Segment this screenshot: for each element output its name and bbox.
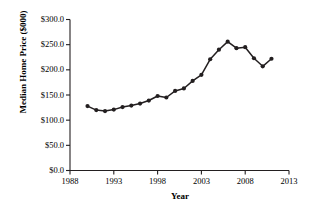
data-point <box>217 48 221 52</box>
data-point <box>164 95 168 99</box>
y-axis-ticks <box>66 20 70 171</box>
x-axis-ticks <box>70 171 289 175</box>
data-point <box>85 104 89 108</box>
data-point <box>173 89 177 93</box>
x-axis-tick-label: 2003 <box>181 176 221 186</box>
data-point <box>252 56 256 60</box>
y-axis-tick-label: $300.0 <box>20 14 64 24</box>
x-axis-title: Year <box>70 191 290 201</box>
x-axis-tick-label: 1988 <box>50 176 90 186</box>
data-point <box>120 105 124 109</box>
data-point-markers <box>85 40 273 114</box>
x-axis-tick-label: 1998 <box>138 176 178 186</box>
data-point <box>234 46 238 50</box>
y-axis-tick-label: $250.0 <box>20 39 64 49</box>
data-point <box>243 45 247 49</box>
data-point <box>138 101 142 105</box>
data-point <box>208 57 212 61</box>
data-point <box>156 94 160 98</box>
x-axis-tick-label: 2008 <box>225 176 265 186</box>
x-axis-tick-label: 2013 <box>269 176 309 186</box>
y-axis-tick-label: $200.0 <box>20 64 64 74</box>
y-axis-tick-label: $50.0 <box>20 140 64 150</box>
data-series-line <box>88 42 272 111</box>
x-axis-tick-label: 1993 <box>94 176 134 186</box>
y-axis-tick-label: $150.0 <box>20 90 64 100</box>
data-point <box>94 108 98 112</box>
data-point <box>269 57 273 61</box>
data-point <box>112 108 116 112</box>
data-point <box>199 73 203 77</box>
data-point <box>226 40 230 44</box>
y-axis-tick-label: $0.0 <box>20 165 64 175</box>
data-point <box>129 103 133 107</box>
data-point <box>261 64 265 68</box>
data-point <box>147 98 151 102</box>
y-axis-tick-label: $100.0 <box>20 115 64 125</box>
data-point <box>103 109 107 113</box>
data-point <box>191 79 195 83</box>
data-point <box>182 86 186 90</box>
chart-figure: Median Home Price ($000) Year $0.0$50.0$… <box>0 0 310 213</box>
chart-axes <box>70 20 289 171</box>
